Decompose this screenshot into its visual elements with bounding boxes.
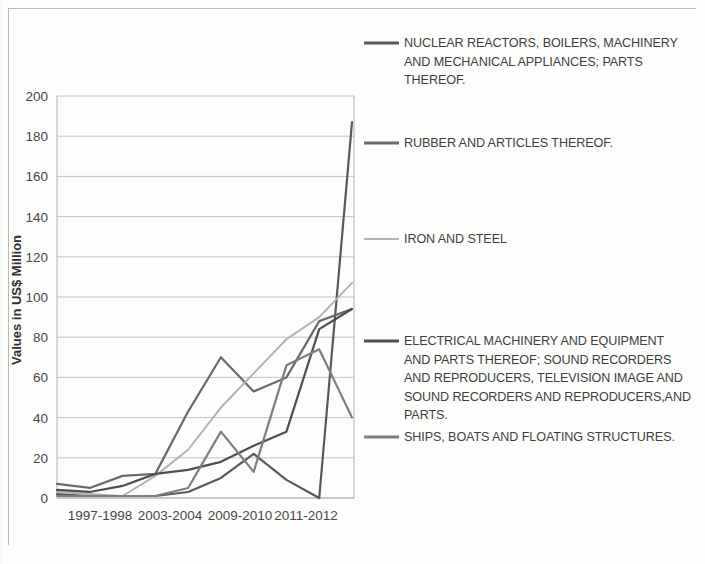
chart-legend: NUCLEAR REACTORS, BOILERS, MACHINERYAND … [364,36,691,444]
legend-label-3: PARTS. [404,408,448,422]
gridlines [57,96,354,498]
legend-label-0: THEREOF. [404,73,465,87]
y-tick-80: 80 [33,330,48,345]
legend-label-4: SHIPS, BOATS AND FLOATING STRUCTURES. [404,430,675,444]
y-tick-160: 160 [25,169,48,184]
series-line-2 [57,283,352,496]
y-tick-180: 180 [25,129,48,144]
legend-label-0: NUCLEAR REACTORS, BOILERS, MACHINERY [404,36,678,50]
y-tick-0: 0 [40,491,48,506]
legend-label-3: AND PARTS THEREOF; SOUND RECORDERS [404,353,671,367]
y-tick-20: 20 [33,451,48,466]
y-tick-200: 200 [25,89,48,104]
x-tick-1997-1998: 1997-1998 [68,508,133,523]
series-line-4 [57,349,352,496]
line-chart: 020406080100120140160180200 1997-1998200… [0,0,705,564]
x-tick-2009-2010: 2009-2010 [208,508,273,523]
x-axis-tick-labels: 1997-19982003-20042009-20102011-2012 [68,508,338,523]
y-axis-tick-labels: 020406080100120140160180200 [25,89,48,506]
legend-label-0: AND MECHANICAL APPLIANCES; PARTS [404,55,643,69]
series-line-3 [57,309,352,492]
x-tick-2003-2004: 2003-2004 [138,508,203,523]
legend-label-3: ELECTRICAL MACHINERY AND EQUIPMENT [404,334,665,348]
legend-label-3: AND REPRODUCERS, TELEVISION IMAGE AND [404,371,683,385]
y-tick-100: 100 [25,290,48,305]
y-axis-title: Values in US$ Million [9,235,24,365]
legend-label-3: SOUND RECORDERS AND REPRODUCERS,AND [404,390,691,404]
legend-label-2: IRON AND STEEL [404,232,507,246]
y-tick-60: 60 [33,370,48,385]
y-tick-140: 140 [25,210,48,225]
y-tick-40: 40 [33,411,48,426]
legend-label-1: RUBBER AND ARTICLES THEREOF. [404,136,613,150]
x-tick-2011-2012: 2011-2012 [274,508,338,523]
data-series-group [57,122,352,498]
series-line-0 [57,122,352,498]
y-tick-120: 120 [25,250,48,265]
